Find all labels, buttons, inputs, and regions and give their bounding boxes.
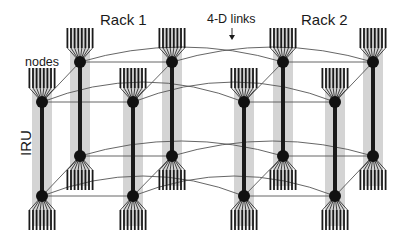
iru-label: IRU [18,130,33,156]
router-node-icon [277,150,289,162]
router-node-icon [166,56,178,68]
nodes-label: nodes [25,56,59,69]
router-node-icon [166,150,178,162]
router-node-icon [329,96,341,108]
links-label: 4-D links [207,13,256,26]
router-node-icon [367,56,379,68]
router-node-icon [74,56,86,68]
router-node-icon [127,190,139,202]
router-node-icon [238,96,250,108]
router-node-icon [367,150,379,162]
rack-2-label: Rack 2 [301,12,348,27]
rack-1-label: Rack 1 [100,12,147,27]
router-node-icon [238,190,250,202]
router-node-icon [277,56,289,68]
router-node-icon [36,190,48,202]
router-node-icon [127,96,139,108]
router-node-icon [74,150,86,162]
router-node-icon [36,96,48,108]
diagram-graphic [0,0,405,245]
router-node-icon [329,190,341,202]
links-arrowhead-icon [229,35,235,40]
iru-topology-diagram: Rack 1 Rack 2 4-D links nodes IRU [0,0,405,245]
link-line [172,47,373,62]
